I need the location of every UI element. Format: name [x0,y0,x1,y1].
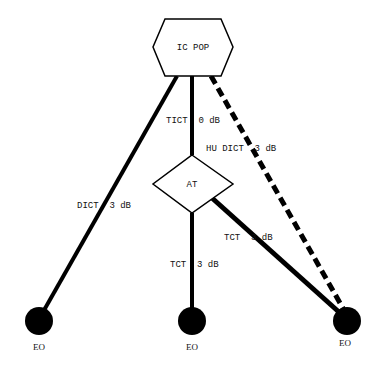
eo-left-label: EO [33,342,45,352]
eo-left-node [25,307,53,335]
edge-ic-pop-to-eo-left [43,76,177,312]
edge-label-hu-dict: HU DICT 3 dB [206,144,277,154]
network-diagram: IC POP AT EO EO EO TICT 0 dB HU DICT 3 d… [0,0,384,372]
eo-right-label: EO [339,338,351,348]
ic-pop-label: IC POP [177,43,209,53]
edge-label-dict: DICT 3 dB [77,201,132,211]
edge-at-to-eo-right [212,198,340,313]
eo-middle-node [178,307,206,335]
edge-label-tict: TICT 0 dB [166,116,221,126]
edge-label-tct-middle: TCT 3 dB [170,260,219,270]
edge-ic-pop-to-eo-right [211,76,344,310]
eo-middle-label: EO [186,342,198,352]
at-label: AT [187,180,198,190]
edge-label-tct-right: TCT 3 dB [224,233,273,243]
eo-right-node [333,307,361,335]
